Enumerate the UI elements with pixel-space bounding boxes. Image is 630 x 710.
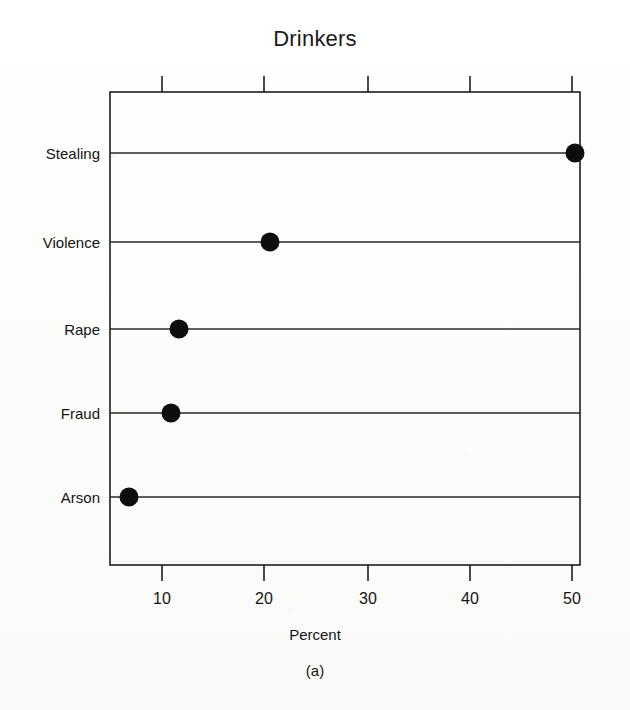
ytick-label-stealing: Stealing (0, 145, 100, 162)
x-axis-title: Percent (0, 626, 630, 643)
figure-panel: Drinkers (0, 0, 630, 710)
data-point-arson (120, 488, 139, 507)
ytick-label-fraud: Fraud (0, 405, 100, 422)
ytick-label-rape: Rape (0, 321, 100, 338)
data-point-stealing (566, 144, 585, 163)
xtick-label-50: 50 (563, 590, 581, 608)
plot-area (0, 0, 630, 710)
ytick-label-violence: Violence (0, 234, 100, 251)
xtick-label-30: 30 (359, 590, 377, 608)
bottom-axis-ticks (162, 565, 572, 581)
data-points (120, 144, 585, 507)
xtick-label-10: 10 (153, 590, 171, 608)
xtick-label-20: 20 (255, 590, 273, 608)
data-point-rape (170, 320, 189, 339)
top-axis-ticks (162, 76, 572, 92)
data-point-fraud (162, 404, 181, 423)
ytick-label-arson: Arson (0, 489, 100, 506)
xtick-label-40: 40 (461, 590, 479, 608)
figure-caption: (a) (0, 662, 630, 679)
data-point-violence (261, 233, 280, 252)
